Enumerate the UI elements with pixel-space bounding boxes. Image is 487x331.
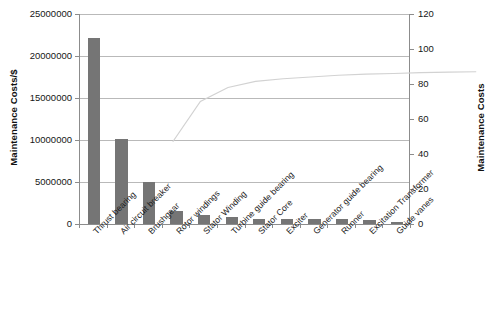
y-axis-right-tick: [410, 49, 414, 50]
y-axis-right-tick: [410, 14, 414, 15]
y-axis-right-tick-label: 80: [418, 78, 429, 89]
y-axis-left-tick-label: 10000000: [2, 134, 72, 145]
y-axis-right-tick: [410, 84, 414, 85]
gridline: [80, 14, 409, 15]
y-axis-left-tick-label: 15000000: [2, 92, 72, 103]
y-axis-left-tick: [75, 182, 79, 183]
y-axis-left-tick-label: 5000000: [2, 176, 72, 187]
y-axis-right-tick: [410, 154, 414, 155]
y-axis-right-tick: [410, 119, 414, 120]
x-axis-category-labels: Thrust bearingAir circuit breakerBrushge…: [0, 224, 487, 331]
y-axis-left-tick: [75, 56, 79, 57]
y-axis-right-tick-label: 60: [418, 113, 429, 124]
y-axis-left-tick-label: 20000000: [2, 50, 72, 61]
y-axis-left-tick: [75, 140, 79, 141]
y-axis-right-tick-label: 100: [418, 43, 434, 54]
y-axis-right-tick-label: 120: [418, 8, 434, 19]
y-axis-left-title: Maintenance Costs/$: [8, 58, 19, 178]
y-axis-left-tick-label: 25000000: [2, 8, 72, 19]
pareto-chart: Maintenance Costs/$ Maintenance Costs 05…: [0, 0, 487, 331]
cumulative-line: [173, 72, 476, 142]
y-axis-left-tick: [75, 14, 79, 15]
y-axis-left-tick: [75, 98, 79, 99]
bar: [88, 38, 100, 224]
y-axis-right-tick-label: 40: [418, 148, 429, 159]
